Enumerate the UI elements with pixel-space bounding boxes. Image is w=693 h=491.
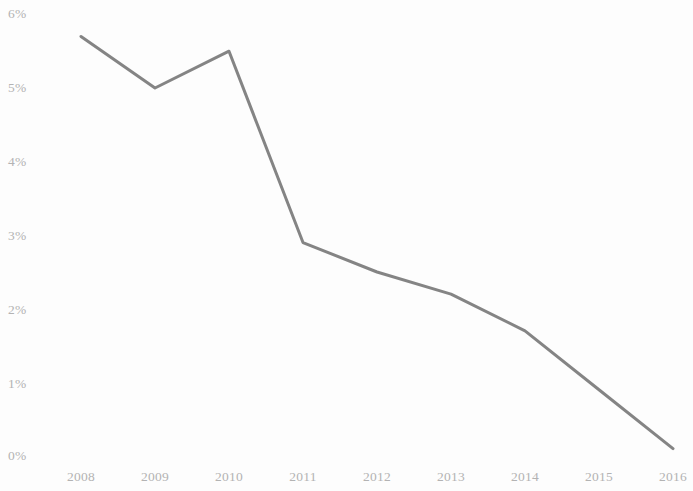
plot-area	[0, 0, 693, 491]
data-series-line	[81, 36, 673, 448]
line-chart: 6% 5% 4% 3% 2% 1% 0% 2008 2009 2010 2011…	[0, 0, 693, 491]
